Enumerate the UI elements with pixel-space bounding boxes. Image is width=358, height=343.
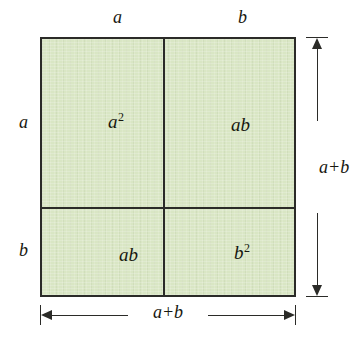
edge-label-top-a: a (113, 8, 122, 26)
arrow-left-icon (41, 310, 52, 320)
edge-label-left-a: a (19, 113, 28, 131)
arrow-down-icon (312, 285, 322, 296)
cell-label-a-squared-base: a (108, 111, 118, 132)
cell-label-ab-bottom: ab (119, 245, 138, 264)
cell-label-a-squared-exponent: 2 (118, 110, 124, 124)
cell-label-ab-top: ab (231, 115, 250, 134)
edge-label-left-b: b (19, 241, 28, 259)
big-square (40, 37, 296, 297)
bottom-dimension-label: a+b (147, 303, 189, 321)
arrow-up-icon (312, 38, 322, 49)
right-dimension-tick-bottom (306, 296, 328, 297)
cell-label-b-squared-exponent: 2 (244, 241, 250, 255)
horizontal-divider-line (40, 207, 296, 209)
vertical-divider-line (163, 37, 165, 297)
cell-label-b-squared: b2 (234, 243, 250, 262)
bottom-dimension-tick-right (295, 305, 296, 325)
cell-label-ab-bottom-base: ab (119, 244, 138, 265)
edge-label-top-b: b (238, 8, 247, 26)
diagram-canvas: a b a b a2 ab ab b2 a+b a+b (0, 0, 358, 343)
right-dimension-label: a+b (317, 154, 349, 180)
right-dimension-line: a+b (306, 37, 330, 297)
arrow-right-icon (284, 310, 295, 320)
right-dimension-rule-bottom (317, 213, 318, 291)
right-dimension-rule-top (317, 43, 318, 121)
cell-label-a-squared: a2 (108, 112, 124, 131)
bottom-dimension-rule-right (208, 315, 288, 316)
cell-label-b-squared-base: b (234, 242, 244, 263)
bottom-dimension-line: a+b (40, 305, 296, 327)
cell-label-ab-top-base: ab (231, 114, 250, 135)
bottom-dimension-rule-left (48, 315, 128, 316)
